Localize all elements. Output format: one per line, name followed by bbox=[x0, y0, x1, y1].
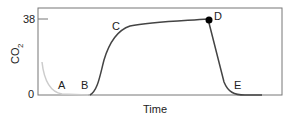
rise-curve bbox=[90, 19, 208, 95]
co2-time-diagram: 38 0 CO 2 Time A B C D E bbox=[0, 0, 285, 122]
svg-text:2: 2 bbox=[16, 43, 25, 48]
tick-label-38: 38 bbox=[23, 13, 35, 25]
point-label-b: B bbox=[81, 79, 88, 91]
point-label-e: E bbox=[234, 79, 241, 91]
x-axis-label: Time bbox=[143, 103, 167, 115]
point-label-d: D bbox=[214, 10, 222, 22]
plot-frame bbox=[38, 8, 282, 95]
peak-dot bbox=[206, 17, 213, 24]
tick-label-0: 0 bbox=[28, 88, 34, 100]
point-label-a: A bbox=[58, 79, 66, 91]
point-label-c: C bbox=[112, 20, 120, 32]
svg-text:CO: CO bbox=[9, 47, 21, 64]
y-axis-label: CO 2 bbox=[9, 43, 25, 64]
